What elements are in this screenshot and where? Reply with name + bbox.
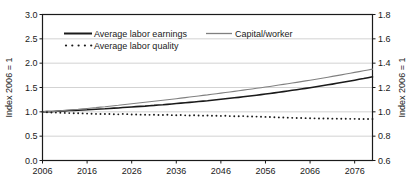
series-dots-average-labor-quality [242,115,244,117]
x-axis-tick-label: 2066 [300,166,320,176]
x-axis-tick-label: 2016 [77,166,97,176]
legend-swatch-average-labor-quality [90,44,92,46]
series-dots-average-labor-quality [220,115,222,117]
x-axis-tick-label: 2056 [255,166,275,176]
series-dots-average-labor-quality [318,118,320,120]
x-axis-tick-label: 2026 [122,166,142,176]
series-dots-average-labor-quality [367,118,369,120]
y-axis-tick-label-left: 1.0 [25,107,38,117]
series-dots-average-labor-quality [126,113,128,115]
y-axis-tick-label-left: 1.5 [25,83,38,93]
series-dots-average-labor-quality [215,115,217,117]
series-dots-average-labor-quality [50,112,52,114]
x-axis-tick-label: 2046 [211,166,231,176]
series-dots-average-labor-quality [327,118,329,120]
series-dots-average-labor-quality [140,114,142,116]
legend-swatch-average-labor-quality [71,44,73,46]
series-dots-average-labor-quality [135,114,137,116]
series-dots-average-labor-quality [238,115,240,117]
series-dots-average-labor-quality [363,118,365,120]
x-axis-tick-label: 2006 [32,166,52,176]
series-dots-average-labor-quality [269,116,271,118]
series-dots-average-labor-quality [229,115,231,117]
series-dots-average-labor-quality [171,114,173,116]
legend-label-capital-worker: Capital/worker [235,29,293,39]
y-axis-tick-label-left: 3.0 [25,10,38,20]
series-dots-average-labor-quality [175,114,177,116]
y-axis-tick-label-left: 2.5 [25,34,38,44]
legend-label-average-labor-earnings: Average labor earnings [94,29,187,39]
legend-swatch-average-labor-quality [65,44,67,46]
series-dots-average-labor-quality [59,112,61,114]
series-dots-average-labor-quality [100,113,102,115]
y-axis-tick-label-right: 0.8 [378,131,391,141]
x-axis-tick-label: 2076 [345,166,365,176]
series-dots-average-labor-quality [144,114,146,116]
y-axis-tick-label-left: 2.0 [25,58,38,68]
series-dots-average-labor-quality [224,115,226,117]
series-dots-average-labor-quality [207,114,209,116]
series-dots-average-labor-quality [73,112,75,114]
series-dots-average-labor-quality [331,118,333,120]
series-dots-average-labor-quality [193,114,195,116]
series-dots-average-labor-quality [265,116,267,118]
series-dots-average-labor-quality [309,117,311,119]
series-dots-average-labor-quality [184,114,186,116]
series-dots-average-labor-quality [117,113,119,115]
series-dots-average-labor-quality [291,117,293,119]
series-dots-average-labor-quality [233,115,235,117]
series-dots-average-labor-quality [336,118,338,120]
line-chart: 0.00.51.01.52.02.53.00.60.81.01.21.41.61… [0,0,418,189]
series-dots-average-labor-quality [95,113,97,115]
legend-swatch-average-labor-quality [78,44,80,46]
series-dots-average-labor-quality [108,113,110,115]
series-dots-average-labor-quality [340,118,342,120]
series-dots-average-labor-quality [349,118,351,120]
series-dots-average-labor-quality [82,112,84,114]
series-dots-average-labor-quality [273,116,275,118]
y-axis-title-left: Index 2006 = 1 [4,58,14,118]
series-dots-average-labor-quality [247,115,249,117]
series-dots-average-labor-quality [358,118,360,120]
series-dots-average-labor-quality [55,112,57,114]
y-axis-title-right: Index 2006 = 1 [397,58,407,118]
series-dots-average-labor-quality [113,113,115,115]
y-axis-tick-label-right: 1.0 [378,107,391,117]
series-dots-average-labor-quality [46,111,48,113]
legend-label-average-labor-quality: Average labor quality [94,41,179,51]
x-axis-tick-label: 2036 [166,166,186,176]
series-dots-average-labor-quality [162,114,164,116]
series-dots-average-labor-quality [278,116,280,118]
series-dots-average-labor-quality [42,111,44,113]
series-dots-average-labor-quality [189,114,191,116]
series-dots-average-labor-quality [158,114,160,116]
y-axis-tick-label-right: 0.6 [378,156,391,166]
y-axis-tick-label-left: 0.0 [25,156,38,166]
series-dots-average-labor-quality [122,113,124,115]
y-axis-tick-label-right: 1.4 [378,58,391,68]
series-dots-average-labor-quality [354,118,356,120]
series-dots-average-labor-quality [323,118,325,120]
series-dots-average-labor-quality [202,115,204,117]
series-dots-average-labor-quality [296,117,298,119]
series-dots-average-labor-quality [211,115,213,117]
y-axis-tick-label-right: 1.8 [378,10,391,20]
series-dots-average-labor-quality [287,117,289,119]
series-dots-average-labor-quality [104,113,106,115]
y-axis-tick-label-left: 0.5 [25,131,38,141]
series-dots-average-labor-quality [64,112,66,114]
series-dots-average-labor-quality [86,113,88,115]
series-dots-average-labor-quality [345,118,347,120]
series-dots-average-labor-quality [149,114,151,116]
series-dots-average-labor-quality [372,118,374,120]
series-dots-average-labor-quality [260,116,262,118]
series-dots-average-labor-quality [77,112,79,114]
y-axis-tick-label-right: 1.6 [378,34,391,44]
series-dots-average-labor-quality [153,114,155,116]
series-dots-average-labor-quality [131,114,133,116]
series-dots-average-labor-quality [91,113,93,115]
series-dots-average-labor-quality [256,116,258,118]
series-dots-average-labor-quality [300,117,302,119]
series-dots-average-labor-quality [251,116,253,118]
series-dots-average-labor-quality [68,112,70,114]
